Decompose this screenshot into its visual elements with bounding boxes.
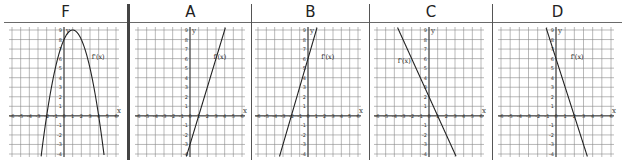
x-tick-label: 3: [88, 113, 91, 119]
y-tick-label: -2: [183, 132, 188, 138]
y-tick-label: 1: [303, 103, 306, 109]
y-tick-label: 6: [185, 56, 188, 62]
y-tick-label: 6: [59, 56, 62, 62]
y-tick-label: 8: [551, 37, 554, 43]
x-tick-label: 0: [306, 113, 309, 119]
x-tick-label: -3: [401, 113, 406, 119]
x-tick-label: -3: [526, 113, 531, 119]
y-axis-label: y: [191, 27, 196, 35]
x-tick-label: -3: [281, 113, 286, 119]
x-tick-label: 0: [188, 113, 191, 119]
y-tick-label: -2: [549, 132, 554, 138]
function-label: f'(x): [398, 57, 411, 65]
y-tick-label: -1: [57, 122, 62, 128]
x-tick-label: -6: [10, 113, 15, 119]
y-tick-label: 2: [424, 94, 427, 100]
x-tick-label: -5: [144, 113, 149, 119]
y-tick-label: 9: [185, 27, 188, 33]
graph-panel-f: -6-5-4-3-2-10123456-4-3-2-1123456789xyf'…: [8, 24, 124, 160]
x-tick-label: -6: [375, 113, 380, 119]
x-tick-label: -1: [179, 113, 184, 119]
x-tick-label: 1: [564, 113, 567, 119]
column-divider: [251, 4, 252, 160]
y-tick-label: 3: [185, 84, 188, 90]
y-tick-label: 1: [59, 103, 62, 109]
graph-panel-b: -6-5-4-3-2-10123456-4-3-2-1123456789xyf'…: [254, 24, 366, 160]
x-tick-label: 5: [232, 113, 235, 119]
x-tick-label: 2: [323, 113, 326, 119]
column-title-a: A: [130, 3, 251, 21]
x-tick-label: -2: [409, 113, 414, 119]
y-tick-label: -1: [422, 122, 427, 128]
y-tick-label: 9: [551, 27, 554, 33]
y-tick-label: 6: [424, 56, 427, 62]
x-tick-label: 2: [445, 113, 448, 119]
y-tick-label: -2: [57, 132, 62, 138]
y-axis-label: y: [309, 27, 314, 35]
x-tick-label: 3: [582, 113, 585, 119]
y-tick-label: -1: [549, 122, 554, 128]
column-title-c: C: [370, 3, 492, 21]
column-divider: [127, 4, 130, 160]
y-tick-label: 7: [424, 46, 427, 52]
y-axis-label: y: [557, 27, 562, 35]
x-tick-label: -1: [297, 113, 302, 119]
y-tick-label: 1: [551, 103, 554, 109]
column-divider: [492, 4, 493, 160]
x-tick-label: -4: [27, 113, 32, 119]
graph-panel-d: -6-5-4-3-2-10123456-4-3-2-1123456789xyf'…: [497, 24, 619, 160]
y-tick-label: 8: [303, 37, 306, 43]
x-tick-label: 3: [214, 113, 217, 119]
y-tick-label: 3: [303, 84, 306, 90]
x-tick-label: -5: [383, 113, 388, 119]
x-tick-label: -2: [170, 113, 175, 119]
y-tick-label: 2: [551, 94, 554, 100]
x-tick-label: -1: [418, 113, 423, 119]
y-tick-label: -2: [301, 132, 306, 138]
x-tick-label: 2: [80, 113, 83, 119]
y-tick-label: -4: [57, 151, 62, 157]
x-tick-label: 5: [600, 113, 603, 119]
x-tick-label: -4: [272, 113, 277, 119]
x-tick-label: -3: [162, 113, 167, 119]
x-tick-label: -6: [136, 113, 141, 119]
y-tick-label: -3: [57, 141, 62, 147]
x-tick-label: -1: [544, 113, 549, 119]
x-tick-label: 4: [340, 113, 343, 119]
y-tick-label: 4: [551, 75, 554, 81]
y-tick-label: -3: [422, 141, 427, 147]
y-tick-label: 8: [424, 37, 427, 43]
x-axis-label: x: [482, 107, 486, 115]
y-tick-label: 2: [59, 94, 62, 100]
y-tick-label: -3: [549, 141, 554, 147]
x-tick-label: 5: [471, 113, 474, 119]
x-tick-label: -2: [535, 113, 540, 119]
y-tick-label: -4: [549, 151, 554, 157]
y-tick-label: 6: [551, 56, 554, 62]
x-tick-label: -4: [153, 113, 158, 119]
y-tick-label: 2: [185, 94, 188, 100]
graph-svg: -6-5-4-3-2-10123456-4-3-2-1123456789xyf'…: [373, 24, 489, 160]
x-tick-label: 0: [554, 113, 557, 119]
y-tick-label: 8: [59, 37, 62, 43]
function-curve: [186, 28, 225, 157]
x-tick-label: -5: [264, 113, 269, 119]
y-tick-label: 8: [185, 37, 188, 43]
y-tick-label: 2: [303, 94, 306, 100]
x-tick-label: 4: [462, 113, 465, 119]
x-axis-label: x: [117, 107, 121, 115]
y-tick-label: 1: [185, 103, 188, 109]
x-tick-label: 3: [331, 113, 334, 119]
function-label: f'(x): [92, 53, 105, 61]
y-tick-label: -1: [301, 122, 306, 128]
x-tick-label: 4: [591, 113, 594, 119]
y-tick-label: -4: [422, 151, 427, 157]
x-tick-label: -1: [53, 113, 58, 119]
graph-svg: -6-5-4-3-2-10123456-4-3-2-1123456789xyf'…: [254, 24, 366, 160]
column-title-d: D: [493, 3, 622, 21]
y-tick-label: 4: [59, 75, 62, 81]
y-tick-label: 4: [424, 75, 427, 81]
graph-panel-a: -6-5-4-3-2-10123456-4-3-2-1123456789xyf'…: [134, 24, 250, 160]
x-tick-label: 5: [348, 113, 351, 119]
y-tick-label: 7: [303, 46, 306, 52]
